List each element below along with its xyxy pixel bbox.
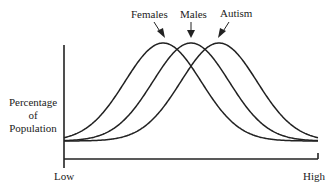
curve-autism [64, 43, 318, 141]
x-axis-high-label: High [303, 170, 325, 182]
arrow-autism-icon [218, 22, 229, 38]
chart-canvas [0, 0, 330, 188]
y-axis-label-line-3: Population [4, 122, 62, 135]
arrow-females-icon [154, 22, 165, 38]
arrow-males-icon [187, 22, 195, 38]
x-axis-low-label: Low [54, 170, 74, 182]
y-axis-label-line-1: Percentage [4, 96, 62, 109]
label-females: Females [131, 8, 168, 20]
y-axis-label: Percentage of Population [4, 96, 62, 135]
label-males: Males [180, 8, 207, 20]
curve-males [64, 43, 318, 141]
label-autism: Autism [220, 7, 252, 19]
y-axis-label-line-2: of [4, 109, 62, 122]
curve-females [64, 43, 318, 141]
